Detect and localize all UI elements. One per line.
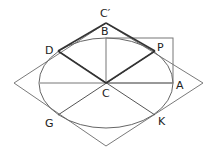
segment-CD (58, 51, 106, 83)
label-G: G (45, 117, 54, 130)
segment-CP (106, 51, 155, 83)
label-P: P (157, 41, 164, 54)
segment-CprimeP (106, 23, 155, 51)
segment-DCprime (58, 23, 106, 51)
label-C-prime: C′ (100, 7, 111, 20)
label-K: K (158, 115, 166, 128)
label-A: A (176, 79, 184, 92)
label-C: C (102, 87, 110, 100)
label-B: B (101, 25, 109, 38)
ellipse-diagram: C′ B D P A C G K (0, 0, 217, 152)
label-D: D (45, 44, 53, 57)
